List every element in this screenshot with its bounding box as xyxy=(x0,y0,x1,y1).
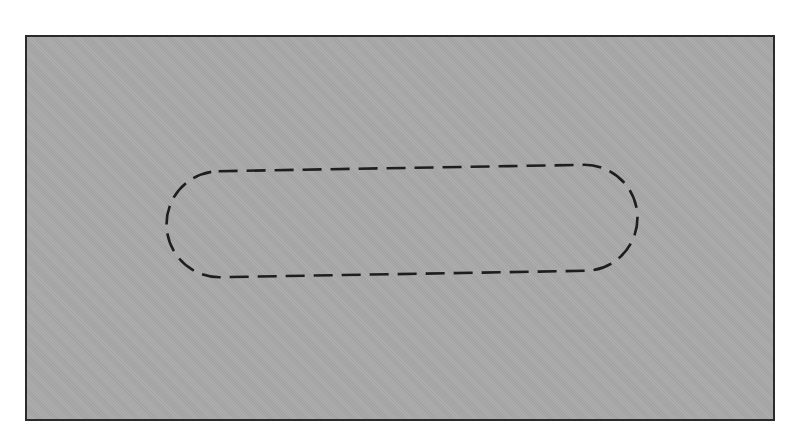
dashed-stadium-outline xyxy=(166,164,639,278)
slot-outline-layer xyxy=(0,0,800,441)
